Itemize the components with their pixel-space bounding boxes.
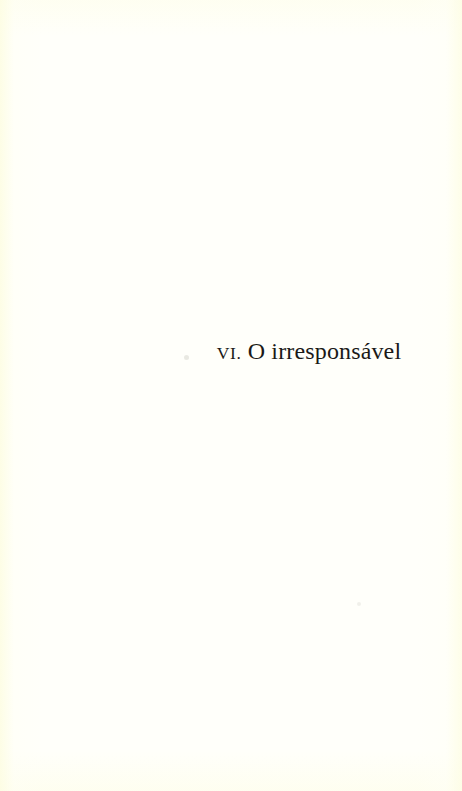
chapter-number: VI.	[217, 343, 242, 363]
chapter-title-line: VI.O irresponsável	[0, 336, 462, 368]
scan-artifact-speck-secondary	[357, 602, 361, 606]
book-page: VI.O irresponsável	[0, 0, 462, 791]
chapter-title: O irresponsável	[248, 338, 402, 364]
